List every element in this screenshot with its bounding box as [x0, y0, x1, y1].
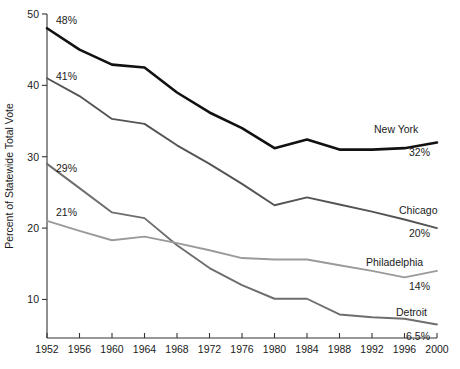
x-tick-label: 1960	[100, 343, 124, 355]
y-axis: 1020304050	[27, 8, 47, 338]
line-chart: 1020304050 19521956196019641968197219761…	[0, 0, 460, 369]
x-axis: 1952195619601964196819721976198019841988…	[35, 333, 449, 355]
series-name-new-york: New York	[374, 123, 419, 135]
x-tick-label: 1976	[230, 343, 254, 355]
series-name-detroit: Detroit	[396, 306, 427, 318]
series-line-detroit	[47, 164, 437, 325]
x-tick-label: 2000	[425, 343, 449, 355]
series-line-chicago	[47, 78, 437, 228]
series-start-value-chicago: 41%	[56, 70, 77, 82]
x-tick-label: 1980	[263, 343, 287, 355]
x-tick-label: 1952	[35, 343, 59, 355]
x-tick-label: 1988	[328, 343, 352, 355]
y-tick-label: 10	[27, 293, 39, 305]
series-start-value-new-york: 48%	[56, 14, 77, 26]
series-start-value-philadelphia: 21%	[56, 206, 77, 218]
y-tick-label: 30	[27, 151, 39, 163]
x-tick-label: 1996	[393, 343, 417, 355]
x-tick-label: 1968	[165, 343, 189, 355]
series-name-philadelphia: Philadelphia	[366, 256, 423, 268]
series-end-value-detroit: 6.5%	[406, 330, 430, 342]
series-line-philadelphia	[47, 221, 437, 277]
chart-canvas: 1020304050 19521956196019641968197219761…	[0, 0, 460, 369]
series-end-value-new-york: 32%	[409, 146, 430, 158]
y-tick-label: 20	[27, 222, 39, 234]
x-tick-label: 1992	[360, 343, 384, 355]
x-tick-label: 1972	[198, 343, 222, 355]
x-tick-label: 1956	[68, 343, 92, 355]
series-start-value-detroit: 29%	[56, 162, 77, 174]
y-axis-title: Percent of Statewide Total Vote	[3, 103, 15, 249]
y-tick-label: 50	[27, 8, 39, 20]
y-tick-label: 40	[27, 79, 39, 91]
series-lines	[47, 28, 437, 324]
series-end-value-philadelphia: 14%	[409, 280, 430, 292]
series-labels: New York32%48%Chicago20%41%Detroit6.5%29…	[56, 14, 438, 342]
series-end-value-chicago: 20%	[409, 227, 430, 239]
x-tick-label: 1964	[133, 343, 157, 355]
series-name-chicago: Chicago	[399, 204, 438, 216]
x-tick-label: 1984	[295, 343, 319, 355]
